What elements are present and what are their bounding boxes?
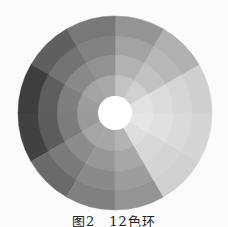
figure-caption: 图2 12色环 xyxy=(0,211,228,227)
color-wheel xyxy=(0,0,228,227)
wheel-center xyxy=(98,96,132,130)
